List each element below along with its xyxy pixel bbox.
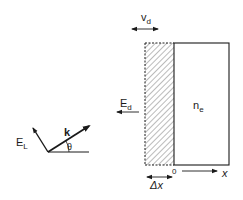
- laser-incidence-annotation: θ k EL: [16, 126, 89, 152]
- density-label: ne: [193, 99, 204, 114]
- angle-label: θ: [67, 142, 72, 152]
- laser-field-arrow: [33, 128, 48, 152]
- wave-vector-label: k: [64, 126, 71, 138]
- hatched-drift-layer: [145, 43, 174, 165]
- drift-field-label: Ed: [120, 97, 132, 112]
- plasma-diagram: vd ne Ed 0 x Δx θ k EL: [0, 0, 243, 200]
- origin-label: 0: [172, 167, 177, 176]
- x-axis-label: x: [221, 167, 228, 179]
- plasma-slab: [174, 43, 229, 165]
- drift-velocity-label: vd: [141, 11, 151, 26]
- drift-velocity-annotation: vd: [132, 11, 158, 29]
- drift-field-annotation: Ed: [117, 97, 139, 112]
- delta-x-annotation: Δx: [147, 177, 172, 191]
- laser-field-label: EL: [16, 136, 28, 151]
- delta-x-label: Δx: [149, 179, 163, 191]
- x-axis-annotation: 0 x: [172, 167, 228, 179]
